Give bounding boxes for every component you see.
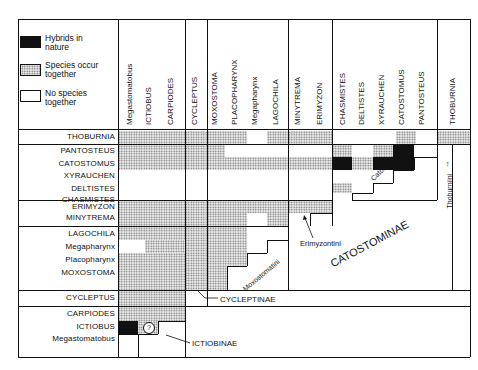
ictiobinae-step: [138, 334, 158, 335]
ictiobinae-step: [158, 321, 185, 322]
row-label: DELTISTES: [71, 184, 115, 193]
row-label: XYRAUCHEN: [64, 171, 115, 180]
col-divider-labels: [118, 19, 119, 357]
col-label: ICTIOBUS: [144, 87, 153, 125]
cell-cooccur: [207, 240, 227, 290]
cycleptinae-pointer: [196, 289, 221, 303]
thoburniini-arrow-icon: →: [442, 161, 451, 169]
cell-cooccur: [185, 131, 207, 144]
cell-cooccur: [207, 157, 332, 170]
cell-cooccur: [118, 145, 185, 157]
row-label: CARPIODES: [67, 309, 115, 318]
row-label: MOXOSTOMA: [61, 268, 115, 277]
annotation-cycleptinae: CYCLEPTINAE: [220, 295, 276, 304]
cell-cooccur: [437, 131, 470, 144]
moxostomatini-step: [227, 266, 247, 267]
cell-cooccur: [267, 131, 288, 144]
col-divider-cycleptinae: [207, 19, 208, 306]
ictiobinae-step: [138, 334, 139, 357]
catostomini-step: [414, 157, 415, 170]
cell-cooccur: [207, 131, 247, 144]
row-label: Placopharynx: [65, 255, 115, 264]
col-label: Megastomatobus: [125, 64, 134, 125]
catostomini-step: [373, 183, 374, 193]
cell-cooccur: [288, 131, 332, 144]
cell-cooccur: [267, 213, 288, 226]
cell-cooccur: [118, 307, 185, 321]
moxostomatini-step: [227, 266, 228, 290]
moxostomatini-step: [267, 240, 268, 253]
cell-cooccur: [352, 157, 373, 170]
col-label: CATOSTOMUS: [397, 69, 406, 125]
col-label: LAGOCHILA: [271, 79, 280, 125]
annotation-thoburniini: Thoburniini: [446, 174, 453, 209]
annotation-ictiobinae: ICTIOBINAE: [192, 339, 237, 348]
cell-cooccur: [288, 201, 332, 213]
col-label: CARPIODES: [166, 78, 175, 125]
catostomini-step: [352, 193, 353, 200]
row-label: LAGOCHILA: [68, 229, 115, 238]
row-label: Megastomatobus: [52, 334, 115, 343]
row-label: CATOSTOMUS: [58, 159, 115, 168]
cell-cooccur: [118, 291, 185, 306]
moxostomatini-step: [267, 240, 288, 241]
col-divider-catostomini: [437, 19, 438, 144]
row-label: Megapharynx: [65, 242, 115, 251]
col-divider-moxostomatini: [288, 19, 289, 290]
col-label: DELTISTES: [357, 82, 366, 125]
catostomini-step: [373, 183, 393, 184]
cell-cooccur: [207, 213, 247, 226]
erimyzontini-pointer: [300, 214, 330, 242]
cell-cooccur: [207, 201, 288, 213]
cell-hybrid: [332, 157, 352, 170]
cell-cooccur: [118, 227, 185, 240]
col-label: MOXOSTOMA: [210, 72, 219, 125]
cell-cooccur: [185, 227, 207, 290]
col-label: CYCLEPTUS: [190, 77, 199, 125]
col-label: PLACOPHARYNX: [230, 59, 239, 125]
moxostomatini-step: [247, 253, 248, 266]
ictiobinae-step: [118, 334, 138, 335]
cell-cooccur: [118, 131, 185, 144]
row-label: CYCLEPTUS: [66, 293, 115, 302]
ictiobinae-step: [158, 321, 159, 334]
col-label: CHASMISTES: [338, 73, 347, 125]
erimyzontini-box-right: [332, 200, 333, 226]
cell-cooccur: [185, 145, 207, 157]
cell-cooccur: [118, 157, 185, 170]
col-divider-erimyzontini: [332, 19, 333, 226]
col-divider-ictiobinae: [185, 19, 186, 357]
frame-right: [470, 19, 471, 357]
cell-cooccur: [185, 201, 207, 226]
col-label: ERIMYZON: [315, 83, 324, 125]
row-label: ICTIOBUS: [76, 322, 115, 331]
cell-cooccur: [145, 240, 185, 253]
catostomini-step: [393, 170, 394, 183]
cell-cooccur: [207, 145, 225, 157]
row-label: MINYTREMA: [66, 213, 115, 222]
col-label: XYRAUCHEN: [377, 75, 386, 125]
moxostomatini-step: [247, 253, 267, 254]
cell-cooccur: [396, 131, 416, 144]
cell-hybrid: [118, 321, 138, 334]
thoburniini-box-right: [452, 144, 453, 290]
ictiobinae-pointer: [164, 333, 192, 347]
cell-cooccur: [185, 157, 207, 170]
hybridization-matrix-diagram: Hybrids in nature Species occur together…: [0, 0, 478, 370]
catostomini-box-right: [437, 144, 438, 200]
col-label: Megapharynx: [250, 77, 259, 125]
col-label: THOBURNIA: [448, 78, 457, 125]
cell-cooccur: [118, 201, 185, 226]
cell-cooccur: [332, 145, 352, 157]
col-label: MINYTREMA: [293, 77, 302, 125]
catostomini-box-bottom: [352, 200, 437, 201]
cell-cooccur: [207, 227, 247, 240]
catostomini-step: [352, 193, 373, 194]
cell-cooccur: [227, 240, 247, 266]
row-label: THOBURNIA: [67, 132, 115, 141]
row-label: PANTOSTEUS: [61, 146, 116, 155]
row-labels: THOBURNIA PANTOSTEUS CATOSTOMUS XYRAUCHE…: [18, 0, 115, 370]
uncertain-marker: ?: [143, 322, 155, 334]
catostomini-step: [393, 170, 414, 171]
row-label: ERIMYZON: [72, 202, 115, 211]
